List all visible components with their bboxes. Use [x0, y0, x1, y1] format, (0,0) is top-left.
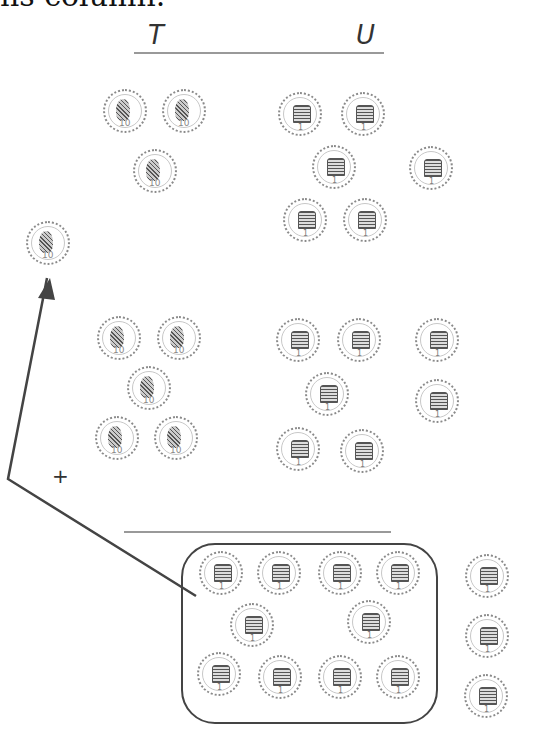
one-penny-coin: 1 [276, 427, 320, 471]
portcullis-icon [391, 564, 409, 582]
one-penny-coin: 1 [409, 146, 453, 190]
ten-pence-coin: 10 [154, 416, 198, 460]
remaining-one-penny-coin: 1 [465, 554, 509, 598]
remaining-one-penny-coin: 1 [465, 614, 509, 658]
one-penny-coin: 1 [341, 92, 385, 136]
one-penny-coin: 1 [305, 372, 349, 416]
lion-icon [140, 376, 154, 398]
grouped-one-penny-coin: 1 [199, 551, 243, 595]
ten-pence-coin: 10 [162, 89, 206, 133]
one-penny-coin: 1 [283, 198, 327, 242]
portcullis-icon [362, 613, 380, 631]
ten-pence-coin: 10 [127, 366, 171, 410]
portcullis-icon [352, 331, 370, 349]
grouped-one-penny-coin: 1 [318, 551, 362, 595]
portcullis-icon [293, 105, 311, 123]
grouped-one-penny-coin: 1 [230, 603, 274, 647]
ten-pence-coin: 10 [133, 149, 177, 193]
one-penny-coin: 1 [415, 318, 459, 362]
portcullis-icon [320, 385, 338, 403]
lion-icon [116, 99, 130, 121]
portcullis-icon [391, 668, 409, 686]
one-penny-coin: 1 [312, 145, 356, 189]
portcullis-icon [333, 564, 351, 582]
one-penny-coin: 1 [415, 379, 459, 423]
one-penny-coin: 1 [340, 429, 384, 473]
ten-pence-coin: 10 [103, 89, 147, 133]
portcullis-icon [291, 331, 309, 349]
portcullis-icon [327, 158, 345, 176]
lion-icon [108, 426, 122, 448]
one-penny-coin: 1 [337, 318, 381, 362]
grouped-one-penny-coin: 1 [197, 652, 241, 696]
carried-ten-pence-coin: 10 [26, 221, 70, 265]
ten-pence-coin: 10 [97, 316, 141, 360]
portcullis-icon [480, 627, 498, 645]
portcullis-icon [424, 159, 442, 177]
ten-pence-coin: 10 [157, 316, 201, 360]
plus-sign: + [52, 464, 69, 488]
lion-icon [146, 159, 160, 181]
grouped-one-penny-coin: 1 [376, 551, 420, 595]
one-penny-coin: 1 [343, 198, 387, 242]
portcullis-icon [333, 668, 351, 686]
one-penny-coin: 1 [276, 318, 320, 362]
portcullis-icon [273, 668, 291, 686]
portcullis-icon [430, 331, 448, 349]
grouped-one-penny-coin: 1 [376, 655, 420, 699]
remaining-one-penny-coin: 1 [464, 674, 508, 718]
grouped-one-penny-coin: 1 [257, 551, 301, 595]
portcullis-icon [214, 564, 232, 582]
grouped-one-penny-coin: 1 [318, 655, 362, 699]
portcullis-icon [298, 211, 316, 229]
one-penny-coin: 1 [278, 92, 322, 136]
lion-icon [170, 326, 184, 348]
portcullis-icon [212, 665, 230, 683]
portcullis-icon [358, 211, 376, 229]
portcullis-icon [479, 687, 497, 705]
lion-icon [167, 426, 181, 448]
portcullis-icon [245, 616, 263, 634]
portcullis-icon [355, 442, 373, 460]
portcullis-icon [272, 564, 290, 582]
ten-pence-coin: 10 [95, 416, 139, 460]
portcullis-icon [356, 105, 374, 123]
grouped-one-penny-coin: 1 [258, 655, 302, 699]
grouped-one-penny-coin: 1 [347, 600, 391, 644]
portcullis-icon [291, 440, 309, 458]
portcullis-icon [480, 567, 498, 585]
lion-icon [39, 231, 53, 253]
lion-icon [110, 326, 124, 348]
portcullis-icon [430, 392, 448, 410]
lion-icon [175, 99, 189, 121]
